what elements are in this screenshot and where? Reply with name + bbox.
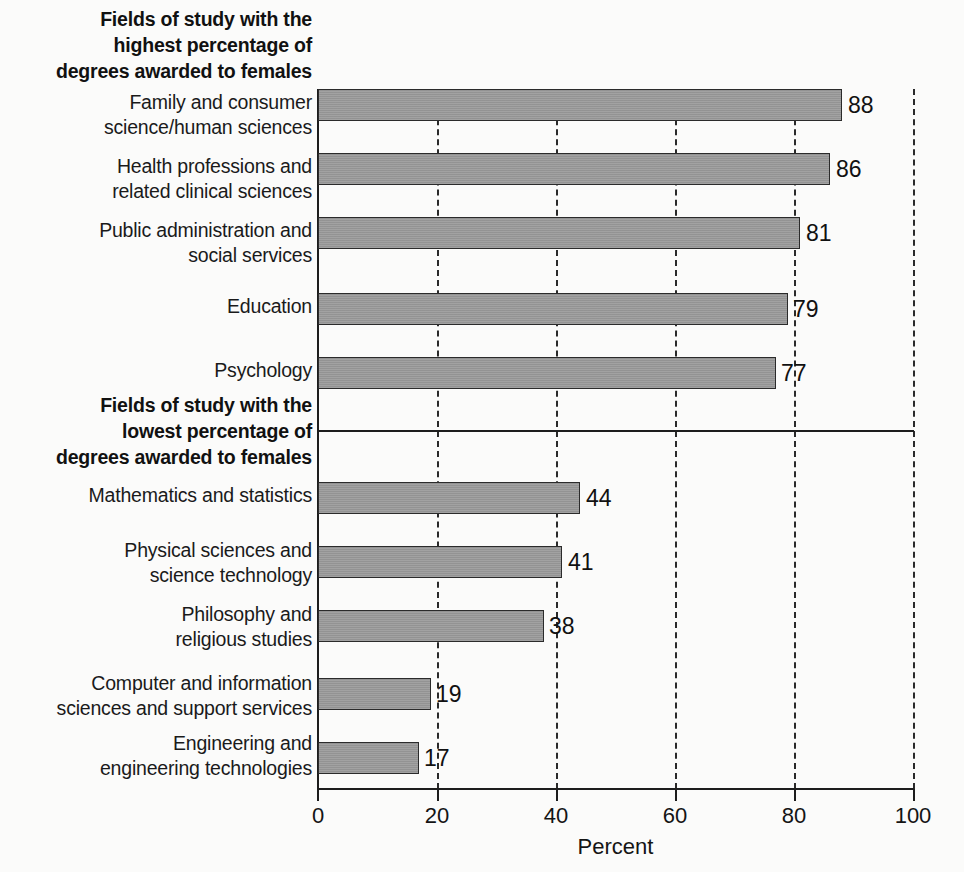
- bar-mathematics-statistics: [318, 482, 580, 514]
- bar-education: [318, 293, 788, 325]
- bar-value-engineering-technologies: 17: [424, 742, 450, 774]
- category-label-computer-information-sciences: Computer and information sciences and su…: [0, 671, 312, 721]
- x-tick-60: [675, 789, 677, 801]
- category-label-philosophy-religious-studies: Philosophy and religious studies: [0, 602, 312, 652]
- category-label-engineering-technologies: Engineering and engineering technologies: [0, 731, 312, 781]
- category-label-family-consumer-science: Family and consumer science/human scienc…: [0, 90, 312, 140]
- gridline-100: [913, 89, 915, 789]
- section-heading-highest: Fields of study with the highest percent…: [12, 6, 312, 84]
- bar-psychology: [318, 357, 776, 389]
- section-heading-lowest-line3: degrees awarded to females: [12, 444, 312, 470]
- category-label-health-professions: Health professions and related clinical …: [0, 154, 312, 204]
- x-ticklabel-40: 40: [516, 803, 596, 829]
- bar-value-health-professions: 86: [836, 153, 862, 185]
- category-label-line1: Health professions and: [0, 154, 312, 179]
- category-label-line1: Computer and information: [0, 671, 312, 696]
- bar-philosophy-religious-studies: [318, 610, 544, 642]
- gridline-80: [794, 89, 796, 789]
- bar-computer-information-sciences: [318, 678, 431, 710]
- x-tick-0: [317, 789, 319, 801]
- category-label-mathematics-statistics: Mathematics and statistics: [0, 483, 312, 508]
- bar-health-professions: [318, 153, 830, 185]
- bar-value-psychology: 77: [781, 357, 807, 389]
- x-tick-100: [913, 789, 915, 801]
- gridline-60: [675, 89, 677, 789]
- bar-engineering-technologies: [318, 742, 419, 774]
- section-heading-lowest: Fields of study with the lowest percenta…: [12, 392, 312, 470]
- bar-value-family-consumer-science: 88: [848, 89, 874, 121]
- category-label-line1: Psychology: [0, 358, 312, 383]
- category-label-physical-sciences: Physical sciences and science technology: [0, 538, 312, 588]
- x-tick-20: [437, 789, 439, 801]
- category-label-line1: Public administration and: [0, 218, 312, 243]
- section-heading-lowest-line1: Fields of study with the: [12, 392, 312, 418]
- x-axis-line: [317, 788, 914, 790]
- category-label-line1: Physical sciences and: [0, 538, 312, 563]
- category-label-public-administration: Public administration and social service…: [0, 218, 312, 268]
- category-label-line2: related clinical sciences: [0, 179, 312, 204]
- section-heading-highest-line3: degrees awarded to females: [12, 58, 312, 84]
- bar-chart-figure: Fields of study with the highest percent…: [0, 0, 964, 872]
- x-axis-title: Percent: [318, 834, 913, 860]
- category-label-line2: religious studies: [0, 627, 312, 652]
- category-label-line1: Philosophy and: [0, 602, 312, 627]
- section-heading-highest-line2: highest percentage of: [12, 32, 312, 58]
- section-heading-lowest-line2: lowest percentage of: [12, 418, 312, 444]
- bar-value-public-administration: 81: [806, 217, 832, 249]
- plot-area: 88 86 81 79 77 44 41 38 19 17 0 20 40 60…: [318, 89, 913, 789]
- x-tick-80: [794, 789, 796, 801]
- x-ticklabel-60: 60: [635, 803, 715, 829]
- bar-value-education: 79: [793, 293, 819, 325]
- bar-public-administration: [318, 217, 800, 249]
- x-ticklabel-20: 20: [397, 803, 477, 829]
- section-divider-line: [317, 430, 914, 432]
- bar-value-physical-sciences: 41: [568, 546, 594, 578]
- category-label-line1: Education: [0, 294, 312, 319]
- bar-value-mathematics-statistics: 44: [586, 482, 612, 514]
- bar-family-consumer-science: [318, 89, 842, 121]
- category-label-line2: engineering technologies: [0, 756, 312, 781]
- category-label-line1: Family and consumer: [0, 90, 312, 115]
- section-heading-highest-line1: Fields of study with the: [12, 6, 312, 32]
- x-tick-40: [556, 789, 558, 801]
- category-label-line1: Mathematics and statistics: [0, 483, 312, 508]
- category-label-line2: science technology: [0, 563, 312, 588]
- gridline-40: [556, 89, 558, 789]
- x-ticklabel-100: 100: [873, 803, 953, 829]
- category-label-psychology: Psychology: [0, 358, 312, 383]
- bar-physical-sciences: [318, 546, 562, 578]
- x-ticklabel-0: 0: [278, 803, 358, 829]
- bar-value-philosophy-religious-studies: 38: [549, 610, 575, 642]
- x-ticklabel-80: 80: [754, 803, 834, 829]
- bar-value-computer-information-sciences: 19: [436, 678, 462, 710]
- category-label-education: Education: [0, 294, 312, 319]
- category-label-line2: sciences and support services: [0, 696, 312, 721]
- category-label-line1: Engineering and: [0, 731, 312, 756]
- category-label-line2: social services: [0, 243, 312, 268]
- category-label-line2: science/human sciences: [0, 115, 312, 140]
